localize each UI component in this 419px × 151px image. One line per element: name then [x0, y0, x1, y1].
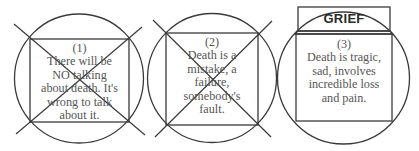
panel-3-text: (3) Death is tragic, sad, involves incre… [296, 38, 392, 105]
panel-2-line: Death is a [166, 49, 258, 62]
panel-2-line: failure, [166, 76, 258, 89]
panel-1-number: (1) [30, 42, 129, 55]
panel-2-line: somebody's [166, 90, 258, 103]
panel-3-line: and pain. [296, 92, 392, 105]
panel-2-number: (2) [166, 36, 258, 49]
panel-1-line: There will be [30, 55, 129, 68]
panel-1-line: about it. [30, 109, 129, 122]
panel-1-line: wrong to talk [30, 96, 129, 109]
panel-3-line: sad, involves [296, 65, 392, 78]
panel-3-number: (3) [296, 38, 392, 51]
panel-1-text: (1) There will be NO talking about death… [30, 42, 129, 122]
panel-1-line: about death. It's [30, 82, 129, 95]
panel-2-line: mistake, a [166, 63, 258, 76]
panel-2-line: fault. [166, 103, 258, 116]
panel-3-line: incredible loss [296, 78, 392, 91]
grief-label: GRIEF [298, 11, 390, 26]
panel-2-text: (2) Death is a mistake, a failure, someb… [166, 36, 258, 116]
panel-3-line: Death is tragic, [296, 51, 392, 64]
panel-1-line: NO talking [30, 69, 129, 82]
